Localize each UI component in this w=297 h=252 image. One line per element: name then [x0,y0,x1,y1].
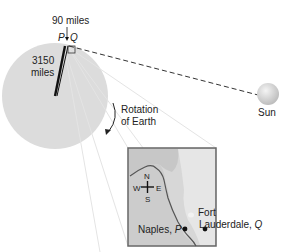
pointer-arrowhead [65,37,69,41]
rotation-arrowhead [105,129,111,135]
naples-letter: P [175,224,182,235]
point-q-label: Q [70,32,78,43]
naples-name: Naples, [138,224,172,235]
radius-value-label: 3150 [32,55,54,66]
naples-dot [183,227,188,232]
radius-unit-label: miles [31,67,54,78]
naples-label: Naples, P [138,224,181,235]
compass-east: E [156,183,161,194]
compass-south: S [145,194,150,205]
lauderdale-label: Lauderdale, Q [199,219,262,230]
sun-circle [257,83,279,105]
point-p-label: P [58,32,65,43]
fort-label: Fort [198,207,216,218]
lake [188,213,194,218]
rotation-label-1: Rotation [121,104,158,115]
compass-north: N [144,171,150,182]
distance-label: 90 miles [52,15,89,26]
lauderdale-name: Lauderdale, [199,219,252,230]
rotation-label-2: of Earth [121,116,156,127]
sun-label: Sun [258,107,276,118]
lauderdale-letter: Q [255,219,263,230]
compass-west: W [133,183,141,194]
earth-sun-diagram: 90 miles P Q 3150 miles Rotation of Eart… [0,0,297,252]
